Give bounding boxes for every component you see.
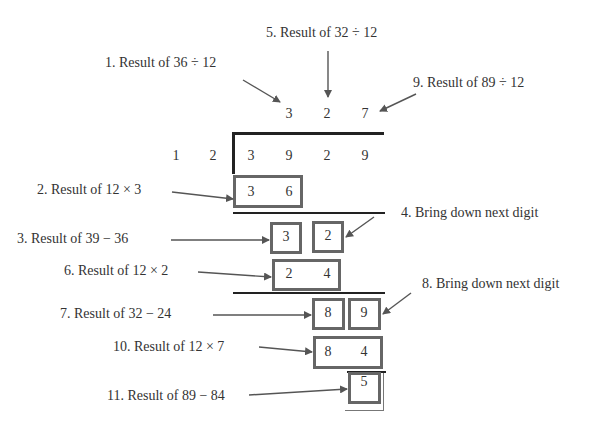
arrow-step-10: [259, 347, 312, 352]
arrow-step-6: [198, 272, 271, 277]
arrow-step-4: [346, 217, 374, 237]
arrow-step-1: [243, 80, 280, 102]
arrow-step-11: [249, 389, 347, 395]
arrows-layer: [0, 0, 597, 434]
arrow-step-9: [380, 94, 416, 111]
arrow-step-2: [172, 192, 233, 199]
arrow-step-8: [383, 293, 411, 314]
